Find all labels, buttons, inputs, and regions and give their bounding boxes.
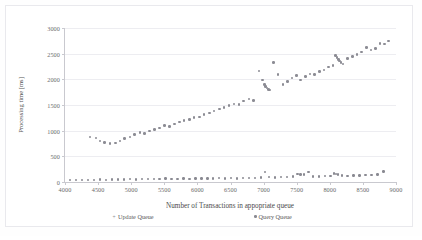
x-tick-label: 6500 <box>224 186 237 193</box>
data-point <box>252 99 255 102</box>
data-point <box>203 113 206 116</box>
gridline <box>65 156 396 157</box>
data-point <box>370 49 373 52</box>
data-point <box>114 142 117 145</box>
data-point <box>286 80 289 83</box>
data-point <box>153 128 156 131</box>
x-tick-mark <box>65 182 66 185</box>
data-point <box>173 123 176 126</box>
data-point <box>254 177 256 179</box>
data-point <box>188 118 191 121</box>
x-tick-label: 5000 <box>125 186 138 193</box>
data-point <box>323 69 326 72</box>
data-point <box>163 124 166 127</box>
data-point <box>370 174 372 176</box>
x-tick-mark <box>363 182 364 185</box>
data-point <box>313 73 316 76</box>
data-point <box>103 141 106 144</box>
y-tick-mark <box>62 54 65 55</box>
data-point <box>158 127 161 130</box>
legend-item-query-queue[interactable]: Query Queue <box>254 213 292 220</box>
data-point <box>93 179 95 181</box>
data-point <box>200 177 202 179</box>
y-tick-mark <box>62 28 65 29</box>
data-point <box>236 177 238 179</box>
data-point <box>89 136 92 139</box>
x-tick-label: 4500 <box>92 186 105 193</box>
x-tick-mark <box>396 182 397 185</box>
y-tick-mark <box>62 156 65 157</box>
data-point <box>206 177 208 179</box>
data-point <box>352 174 354 176</box>
data-point <box>170 178 172 180</box>
x-tick-label: 7000 <box>257 186 270 193</box>
data-point <box>356 53 359 56</box>
data-point <box>329 175 331 177</box>
data-point <box>268 89 271 92</box>
data-point <box>332 64 335 67</box>
gridline <box>65 105 396 106</box>
data-point <box>212 177 214 179</box>
data-point <box>119 140 122 143</box>
data-point <box>358 174 360 176</box>
data-point <box>224 177 226 179</box>
data-point <box>277 73 280 76</box>
data-point <box>365 46 368 49</box>
data-point <box>208 112 211 115</box>
data-point <box>99 178 101 180</box>
data-point <box>183 119 186 122</box>
gridline <box>65 54 396 55</box>
data-point <box>194 177 196 179</box>
data-point <box>133 133 136 136</box>
x-tick-mark <box>164 182 165 185</box>
data-point <box>364 174 366 176</box>
data-point <box>218 177 220 179</box>
data-point <box>295 74 298 77</box>
x-tick-mark <box>330 182 331 185</box>
data-point <box>387 40 390 43</box>
data-point <box>111 178 113 180</box>
dot-marker-icon <box>254 215 257 218</box>
data-point <box>182 177 184 179</box>
data-point <box>286 176 288 178</box>
data-point <box>129 136 132 139</box>
data-point <box>99 140 102 143</box>
y-tick-label: 2000 <box>47 76 60 83</box>
data-point <box>213 110 216 113</box>
x-tick-mark <box>231 182 232 185</box>
x-tick-label: 6000 <box>191 186 204 193</box>
data-point <box>307 171 309 173</box>
y-tick-label: 1500 <box>47 102 60 109</box>
data-point <box>109 142 112 145</box>
data-point <box>382 170 384 172</box>
x-tick-label: 7500 <box>290 186 303 193</box>
data-point <box>374 47 377 50</box>
data-point <box>95 137 98 140</box>
data-point <box>123 137 126 140</box>
data-point <box>188 178 190 180</box>
data-point <box>242 177 244 179</box>
x-tick-label: 8500 <box>357 186 370 193</box>
data-point <box>75 179 77 181</box>
x-tick-mark <box>197 182 198 185</box>
data-point <box>117 178 119 180</box>
data-point <box>268 176 270 178</box>
data-point <box>198 116 201 119</box>
data-point <box>337 173 339 175</box>
data-point <box>346 57 349 60</box>
data-point <box>341 174 343 176</box>
data-point <box>123 178 125 180</box>
data-point <box>143 132 146 135</box>
data-point <box>147 178 149 180</box>
data-point <box>164 177 166 179</box>
data-point <box>168 125 171 128</box>
y-tick-mark <box>62 105 65 106</box>
data-point <box>158 178 160 180</box>
data-point <box>87 179 89 181</box>
y-tick-label: 500 <box>50 153 60 160</box>
x-tick-mark <box>297 182 298 185</box>
data-point <box>351 55 354 58</box>
data-point <box>272 61 275 64</box>
legend-item-update-queue[interactable]: + Update Queue <box>112 213 154 220</box>
y-tick-label: 3000 <box>47 25 60 32</box>
